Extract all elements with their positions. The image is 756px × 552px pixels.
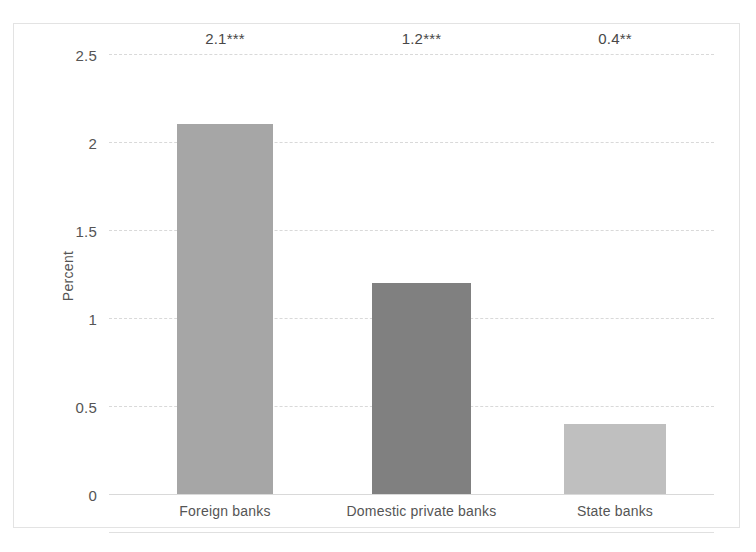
plot-area: 2.5 2 1.5 1 0.5 2.1*** 1.2*** 0.4** 0 <box>109 54 714 494</box>
x-axis-baseline-divider <box>109 532 714 533</box>
x-axis-labels: Foreign banks Domestic private banks Sta… <box>109 503 714 527</box>
bar-slot-domestic-private-banks: 1.2*** <box>372 54 471 494</box>
x-tick-label-domestic-private-banks: Domestic private banks <box>324 503 519 519</box>
y-tick-label-4: 2 <box>88 135 97 152</box>
bar-domestic-private-banks[interactable] <box>372 283 471 494</box>
y-tick-label-0: 0 <box>88 487 97 504</box>
y-tick-label-3: 1.5 <box>76 223 97 240</box>
y-tick-label-1: 0.5 <box>76 399 97 416</box>
y-axis-title: Percent <box>60 250 76 300</box>
bar-slot-state-banks: 0.4** <box>564 54 666 494</box>
x-axis-line: 0 <box>109 494 714 495</box>
x-tick-label-foreign-banks: Foreign banks <box>139 503 311 519</box>
chart-frame: Percent 2.5 2 1.5 1 0.5 2.1*** 1.2*** <box>13 23 740 528</box>
bar-value-domestic-private-banks: 1.2*** <box>402 30 442 47</box>
bar-slot-foreign-banks: 2.1*** <box>177 54 273 494</box>
y-tick-label-5: 2.5 <box>76 47 97 64</box>
x-tick-label-state-banks: State banks <box>529 503 701 519</box>
bar-foreign-banks[interactable] <box>177 124 273 494</box>
bar-state-banks[interactable] <box>564 424 666 494</box>
bar-value-state-banks: 0.4** <box>598 30 632 47</box>
y-tick-label-2: 1 <box>88 311 97 328</box>
bar-value-foreign-banks: 2.1*** <box>205 30 245 47</box>
